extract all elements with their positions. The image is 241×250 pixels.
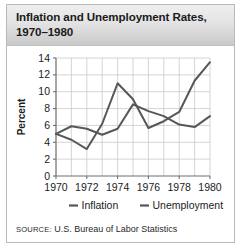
x-tick-label: 1980 bbox=[198, 181, 222, 193]
axis-lines bbox=[53, 58, 210, 179]
page-title: Inflation and Unemployment Rates, 1970–1… bbox=[16, 10, 228, 39]
y-axis-tick-labels: 02468101214 bbox=[38, 52, 50, 182]
y-tick-label: 10 bbox=[38, 85, 50, 97]
legend-label-inflation: Inflation bbox=[82, 199, 119, 211]
y-tick-label: 12 bbox=[38, 68, 50, 80]
source-text: U.S. Bureau of Labor Statistics bbox=[54, 224, 177, 234]
figure-frame: Inflation and Unemployment Rates, 1970–1… bbox=[6, 4, 235, 243]
y-tick-label: 0 bbox=[44, 170, 50, 182]
y-tick-label: 2 bbox=[44, 153, 50, 165]
y-axis-label: Percent bbox=[16, 98, 27, 135]
source-note: SOURCE: U.S. Bureau of Labor Statistics bbox=[16, 224, 177, 234]
gridlines bbox=[56, 58, 210, 176]
x-tick-label: 1970 bbox=[44, 181, 68, 193]
legend-label-unemployment: Unemployment bbox=[153, 199, 224, 211]
chart-legend: InflationUnemployment bbox=[69, 199, 223, 211]
chart-figure: Inflation and Unemployment Rates, 1970–1… bbox=[0, 0, 241, 250]
x-tick-label: 1972 bbox=[75, 181, 99, 193]
source-label: SOURCE: bbox=[16, 225, 52, 234]
x-tick-label: 1978 bbox=[168, 181, 192, 193]
x-tick-label: 1974 bbox=[106, 181, 130, 193]
x-tick-label: 1976 bbox=[137, 181, 161, 193]
y-tick-label: 8 bbox=[44, 102, 50, 114]
y-tick-label: 4 bbox=[44, 136, 50, 148]
y-tick-label: 6 bbox=[44, 119, 50, 131]
x-axis-tick-labels: 197019721974197619781980 bbox=[44, 181, 222, 193]
y-tick-label: 14 bbox=[38, 52, 50, 64]
title-line-1: Inflation and Unemployment Rates, bbox=[16, 10, 207, 23]
plot-area: 02468101214 197019721974197619781980 Per… bbox=[7, 45, 236, 243]
title-line-2: 1970–1980 bbox=[16, 25, 228, 40]
line-chart-svg: 02468101214 197019721974197619781980 Per… bbox=[7, 45, 236, 243]
